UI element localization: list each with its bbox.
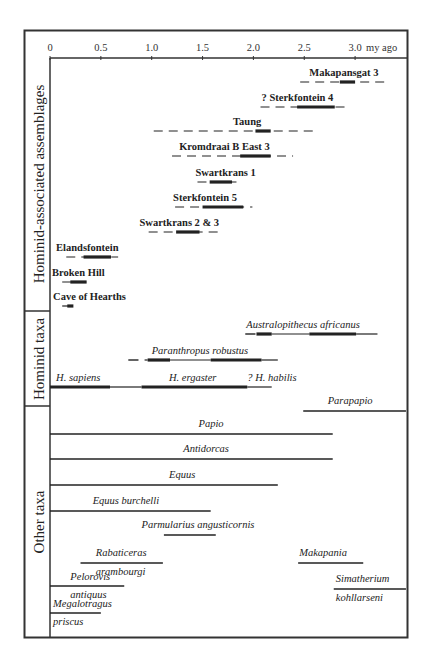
range-item: Makapansgat 3: [300, 67, 386, 82]
range-item: Parapapio: [303, 395, 406, 411]
x-tick-label: 0: [47, 42, 52, 53]
range-label: Rabaticeras: [95, 547, 147, 558]
x-tick-label: 3.0: [349, 42, 362, 53]
range-label: ? H. habilis: [247, 372, 296, 383]
range-label: Sterkfontein 5: [173, 192, 237, 203]
range-label: Swartkrans 1: [195, 167, 255, 178]
range-item: Taung: [154, 116, 319, 131]
range-item: ? H. habilis: [247, 372, 296, 387]
range-item: Australopithecus africanus: [245, 319, 377, 334]
range-label: Papio: [197, 418, 223, 429]
range-item: Equus: [50, 469, 278, 485]
range-item: Equus burchelli: [50, 495, 211, 511]
range-label: Megalotragus: [52, 598, 112, 609]
range-label: Taung: [233, 116, 262, 127]
x-axis-unit-label: my ago: [366, 42, 397, 53]
chart-canvas: Hominid-associated assemblages Hominid t…: [0, 0, 428, 655]
range-item: Antidorcas: [50, 443, 333, 459]
range-item: Swartkrans 2 & 3: [139, 217, 221, 232]
range-label: Parmularius angusticornis: [141, 519, 255, 530]
range-bars: Makapansgat 3? Sterkfontein 4TaungKromdr…: [50, 67, 406, 627]
x-tick-label: 2.5: [298, 42, 311, 53]
range-item: Swartkrans 1: [195, 167, 255, 182]
range-label: Makapansgat 3: [309, 67, 378, 78]
section-label-assemblages: Hominid-associated assemblages: [31, 84, 47, 283]
range-label: H. ergaster: [168, 372, 217, 383]
range-item: Elandsfontein: [56, 242, 119, 257]
range-label: Elandsfontein: [56, 242, 119, 253]
range-item: Papio: [50, 418, 333, 434]
range-item: Broken Hill: [52, 267, 105, 282]
range-label: Australopithecus africanus: [245, 319, 359, 330]
range-label: Broken Hill: [52, 267, 105, 278]
range-label: Makapania: [298, 547, 347, 558]
x-tick-label: 1.5: [196, 42, 209, 53]
range-item: Kromdraai B East 3: [172, 141, 293, 156]
range-label: Antidorcas: [182, 443, 229, 454]
range-item: Megalotraguspriscus: [50, 598, 112, 627]
range-label: Pelorovis: [69, 571, 110, 582]
range-label: Kromdraai B East 3: [179, 141, 270, 152]
range-item: Parmularius angusticornis: [141, 519, 255, 535]
range-label-line2: kohllarseni: [336, 592, 383, 603]
range-label: Cave of Hearths: [53, 291, 126, 302]
x-tick-label: 2.0: [247, 42, 260, 53]
range-label: Parapapio: [327, 395, 373, 406]
x-tick-label: 1.0: [145, 42, 158, 53]
range-label: ? Sterkfontein 4: [262, 92, 334, 103]
range-label: Swartkrans 2 & 3: [139, 217, 219, 228]
section-label-hominid-taxa: Hominid taxa: [31, 318, 47, 400]
range-label: Paranthropus robustus: [151, 345, 248, 356]
x-tick-label: 0.5: [94, 42, 107, 53]
range-item: Cave of Hearths: [53, 291, 126, 306]
range-item: H. ergaster: [142, 372, 248, 387]
range-label: Simatherium: [336, 573, 390, 584]
range-item: Sterkfontein 5: [173, 192, 252, 207]
range-item: Simatheriumkohllarseni: [334, 573, 406, 603]
range-label: Equus: [168, 469, 195, 480]
range-item: Makapania: [298, 547, 363, 563]
range-label-line2: priscus: [52, 616, 83, 627]
range-label: Equus burchelli: [92, 495, 159, 506]
range-item: ? Sterkfontein 4: [261, 92, 348, 107]
range-label: H. sapiens: [55, 372, 100, 383]
range-item: Paranthropus robustus: [128, 345, 277, 360]
section-label-other-taxa: Other taxa: [31, 490, 47, 553]
range-item: H. sapiens: [50, 372, 142, 387]
